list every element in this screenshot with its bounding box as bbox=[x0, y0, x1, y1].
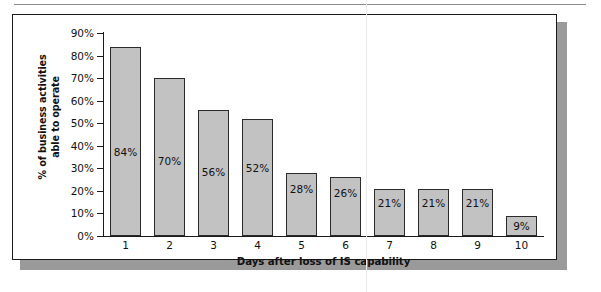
bar bbox=[330, 177, 361, 236]
x-axis-tick-label: 10 bbox=[500, 240, 543, 251]
y-axis-tick-label: 0% bbox=[54, 231, 94, 242]
bar-value-label: 21% bbox=[374, 198, 405, 209]
x-axis-tick-label: 8 bbox=[412, 240, 455, 251]
bar-value-label: 52% bbox=[242, 163, 273, 174]
x-axis-title: Days after loss of IS capability bbox=[103, 256, 544, 267]
x-axis-line bbox=[103, 236, 544, 237]
bar-value-label: 9% bbox=[506, 221, 537, 232]
y-axis-line bbox=[103, 32, 104, 237]
x-axis-tick-label: 4 bbox=[236, 240, 279, 251]
bar bbox=[110, 47, 141, 236]
y-axis-tick bbox=[97, 101, 103, 102]
y-axis-tick bbox=[97, 191, 103, 192]
y-axis-tick bbox=[97, 236, 103, 237]
x-axis-tick-label: 3 bbox=[192, 240, 235, 251]
scan-artifact-line bbox=[366, 0, 367, 292]
bar-value-label: 26% bbox=[330, 188, 361, 199]
y-axis-tick bbox=[97, 78, 103, 79]
y-axis-tick bbox=[97, 213, 103, 214]
bar-value-label: 21% bbox=[418, 198, 449, 209]
x-axis-tick-label: 7 bbox=[368, 240, 411, 251]
y-axis-tick bbox=[97, 33, 103, 34]
bar bbox=[242, 119, 273, 236]
y-axis-title: % of business activitiesable to operate bbox=[37, 22, 63, 212]
bar-value-label: 56% bbox=[198, 167, 229, 178]
page-top-rule bbox=[14, 4, 586, 5]
y-axis-tick bbox=[97, 146, 103, 147]
x-axis-tick-label: 5 bbox=[280, 240, 323, 251]
bar-value-label: 21% bbox=[462, 198, 493, 209]
y-axis-title-line: able to operate bbox=[50, 22, 63, 212]
y-axis-tick bbox=[97, 123, 103, 124]
y-axis-tick bbox=[97, 168, 103, 169]
bar-value-label: 28% bbox=[286, 184, 317, 195]
x-axis-tick-label: 9 bbox=[456, 240, 499, 251]
bar-value-label: 70% bbox=[154, 156, 185, 167]
x-axis-tick-label: 6 bbox=[324, 240, 367, 251]
y-axis-tick bbox=[97, 56, 103, 57]
x-axis-tick-label: 2 bbox=[148, 240, 191, 251]
y-axis-title-line: % of business activities bbox=[37, 22, 50, 212]
bar-value-label: 84% bbox=[110, 147, 141, 158]
x-axis-tick-label: 1 bbox=[104, 240, 147, 251]
